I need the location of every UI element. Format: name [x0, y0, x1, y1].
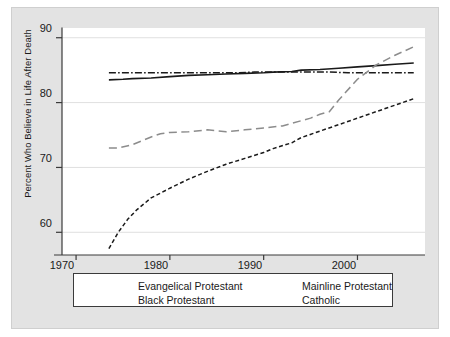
axis-lines: [54, 28, 425, 256]
legend-swatch-mainline-protestant: [244, 281, 296, 291]
legend-entry-evangelical-protestant: Evangelical Protestant: [80, 278, 242, 293]
x-tick-label-1980: 1980: [131, 259, 181, 271]
chart-figure: Percent Who Believe in Life After Death …: [0, 0, 450, 337]
legend-entry-black-protestant: Black Protestant: [80, 292, 214, 307]
gridlines: [62, 38, 425, 233]
series-line-black-protestant: [109, 99, 414, 249]
legend: Evangelical Protestant Black Protestant …: [73, 273, 393, 307]
x-tick-label-2000: 2000: [319, 259, 369, 271]
y-tick-label-60: 60: [22, 217, 52, 229]
series-line-mainline-protestant: [109, 72, 414, 73]
legend-entry-mainline-protestant: Mainline Protestant: [244, 278, 392, 293]
x-tick-label-1990: 1990: [225, 259, 275, 271]
series-line-catholic: [109, 47, 414, 148]
x-tick-label-1970: 1970: [37, 259, 87, 271]
y-axis-title: Percent Who Believe in Life After Death: [22, 14, 33, 214]
legend-swatch-evangelical-protestant: [80, 281, 132, 291]
y-tick-label-90: 90: [22, 22, 52, 34]
axis-ticks: [56, 38, 357, 260]
y-tick-label-70: 70: [22, 152, 52, 164]
legend-label-mainline-protestant: Mainline Protestant: [302, 280, 392, 292]
y-tick-label-80: 80: [22, 87, 52, 99]
legend-entry-catholic: Catholic: [244, 292, 340, 307]
legend-label-catholic: Catholic: [302, 294, 340, 306]
legend-swatch-catholic: [244, 295, 296, 305]
data-series-group: [109, 47, 414, 249]
legend-label-evangelical-protestant: Evangelical Protestant: [138, 280, 242, 292]
legend-swatch-black-protestant: [80, 295, 132, 305]
legend-label-black-protestant: Black Protestant: [138, 294, 214, 306]
